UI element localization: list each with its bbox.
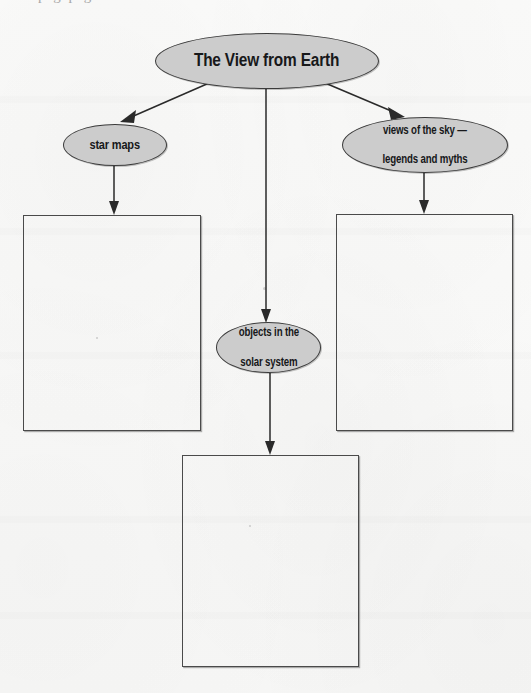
node-label-objects-line-1: objects in the xyxy=(238,325,298,340)
connector-root-to-objects xyxy=(261,88,271,323)
node-views-of-the-sky[interactable]: views of the sky — legends and myths xyxy=(342,117,508,173)
answer-box-star-maps[interactable] xyxy=(23,215,201,431)
connector-objects-to-box xyxy=(265,373,275,455)
node-the-view-from-earth[interactable]: The View from Earth xyxy=(155,33,379,89)
connector-root-to-star-maps xyxy=(120,80,216,123)
node-star-maps[interactable]: star maps xyxy=(63,124,167,166)
node-label-views-of-the-sky: views of the sky — legends and myths xyxy=(377,123,474,167)
concept-map-diagram: The View from Earth star maps views of t… xyxy=(0,0,531,693)
node-objects-in-the-solar-system[interactable]: objects in the solar system xyxy=(216,322,321,373)
answer-box-objects-solar-system[interactable] xyxy=(182,455,359,667)
scanned-page: p g p g xyxy=(0,0,531,693)
connector-views-of-sky-to-box xyxy=(419,172,429,214)
node-label-objects: objects in the solar system xyxy=(234,325,302,369)
connector-star-maps-to-box xyxy=(109,165,119,215)
node-label-star-maps: star maps xyxy=(90,139,140,152)
node-label-views-line-2: legends and myths xyxy=(382,152,467,167)
node-label-views-line-1: views of the sky — xyxy=(382,123,467,138)
answer-box-views-of-sky[interactable] xyxy=(336,214,513,431)
node-label-objects-line-2: solar system xyxy=(238,355,298,370)
connector-root-to-views-of-sky xyxy=(318,80,405,120)
node-label-root: The View from Earth xyxy=(194,52,339,70)
